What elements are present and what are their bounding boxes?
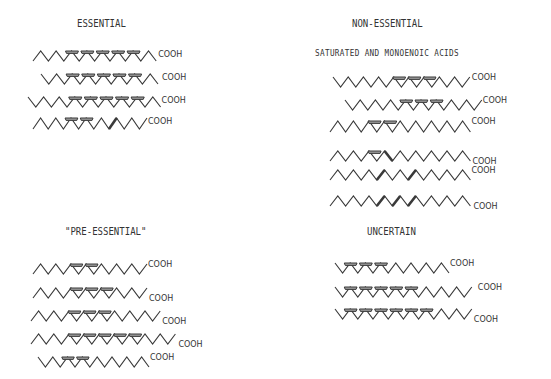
cooh-label: COOH	[158, 50, 182, 59]
fatty-acid-chain-non-essential: COOH	[330, 151, 497, 166]
fatty-acid-chain-uncertain: COOH	[335, 259, 474, 273]
fatty-acid-chain-non-essential: COOH	[330, 166, 496, 180]
fatty-acid-chain-essential: COOH	[28, 96, 186, 107]
cooh-label: COOH	[474, 315, 498, 324]
fatty-acid-chain-uncertain: COOH	[335, 309, 498, 324]
cooh-label: COOH	[178, 340, 202, 349]
cooh-label: COOH	[472, 157, 496, 166]
cooh-label: COOH	[148, 260, 172, 269]
cooh-label: COOH	[483, 96, 507, 105]
fatty-acid-chain-pre-essential: COOH	[38, 353, 174, 367]
cooh-label: COOH	[150, 353, 174, 362]
fatty-acid-chain-non-essential: COOH	[345, 96, 507, 110]
cooh-label: COOH	[478, 283, 502, 292]
fatty-acid-structure-diagram: COOHCOOHCOOHCOOHCOOHCOOHCOOHCOOHCOOHCOOH…	[0, 0, 551, 379]
fatty-acid-chain-non-essential: COOH	[330, 196, 498, 211]
fatty-acid-chain-essential: COOH	[33, 50, 182, 61]
cooh-label: COOH	[162, 96, 186, 105]
cooh-label: COOH	[450, 259, 474, 268]
fatty-acid-chain-pre-essential: COOH	[33, 260, 172, 274]
cooh-label: COOH	[149, 294, 173, 303]
cooh-label: COOH	[471, 166, 495, 175]
fatty-acid-chain-pre-essential: COOH	[31, 334, 203, 349]
fatty-acid-chain-essential: COOH	[41, 73, 186, 84]
cooh-label: COOH	[472, 73, 496, 82]
cooh-label: COOH	[162, 317, 186, 326]
cooh-label: COOH	[473, 202, 497, 211]
fatty-acid-chain-essential: COOH	[33, 117, 172, 129]
fatty-acid-chain-pre-essential: COOH	[31, 311, 186, 326]
fatty-acid-chain-pre-essential: COOH	[33, 288, 173, 303]
cooh-label: COOH	[162, 73, 186, 82]
fatty-acid-chain-non-essential: COOH	[330, 117, 496, 132]
fatty-acid-chain-uncertain: COOH	[335, 283, 502, 297]
cooh-label: COOH	[148, 117, 172, 126]
cooh-label: COOH	[471, 117, 495, 126]
fatty-acid-chain-non-essential: COOH	[333, 73, 496, 87]
